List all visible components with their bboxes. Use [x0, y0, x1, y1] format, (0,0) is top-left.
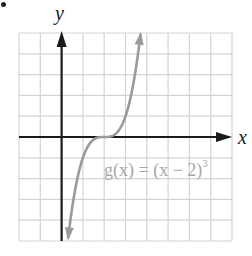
- y-axis-label: y: [55, 3, 64, 23]
- function-label-exponent: 3: [202, 157, 208, 169]
- function-label-main: g(x) = (x − 2): [104, 160, 202, 180]
- coordinate-plane: [0, 0, 252, 256]
- function-label: g(x) = (x − 2)3: [104, 160, 208, 179]
- x-axis-label: x: [238, 127, 247, 147]
